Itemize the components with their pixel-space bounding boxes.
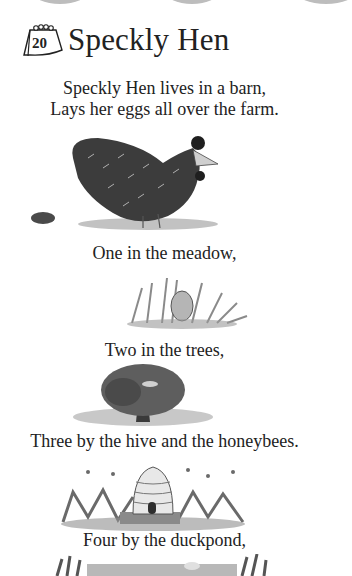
verse-line-4: Two in the trees, [0,340,329,361]
decorative-arc-left [32,0,88,4]
verse-line-1: Speckly Hen lives in a barn, [0,78,329,99]
duckpond-illustration [52,554,272,576]
beehive-illustration [58,462,248,532]
verse-line-6: Four by the duckpond, [0,530,329,551]
title-row: 20 Speckly Hen [18,22,229,58]
verse-line-5: Three by the hive and the honeybees. [0,431,329,452]
calendar-icon: 20 [18,22,64,58]
speckled-hen-illustration [28,128,238,236]
calendar-day-number: 20 [32,35,47,51]
verse-line-3: One in the meadow, [0,243,329,264]
decorative-arc-middle [165,0,219,4]
page-title: Speckly Hen [68,22,229,58]
verse-line-2: Lays her eggs all over the farm. [0,99,329,120]
decorative-arc-right [296,0,352,4]
bird-in-tree-illustration [68,362,218,430]
egg-in-meadow-illustration [112,268,252,330]
